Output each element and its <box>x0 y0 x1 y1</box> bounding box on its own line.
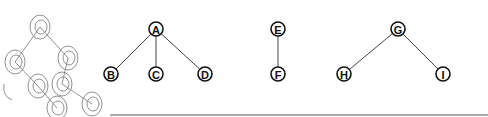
edge-g-i <box>403 34 438 69</box>
node-label: C <box>152 69 160 81</box>
edge-g-h <box>349 33 392 69</box>
sketch-edge <box>40 27 68 58</box>
node-label: B <box>107 69 115 81</box>
node-label: E <box>274 24 281 36</box>
node-b: B <box>104 67 118 81</box>
node-label: F <box>275 69 282 81</box>
node-a: A <box>149 22 163 36</box>
node-label: A <box>152 24 160 36</box>
node-i: I <box>436 67 450 81</box>
sketch-edge <box>15 27 40 62</box>
node-d: D <box>198 67 212 81</box>
edge-a-d <box>161 34 200 70</box>
sketch-node-inner <box>33 79 45 93</box>
sketch-node-inner <box>87 97 99 111</box>
hand-drawn-sketch <box>4 15 102 117</box>
node-f: F <box>271 67 285 81</box>
node-label: G <box>394 24 403 36</box>
sketch-edge <box>62 58 68 84</box>
forest-diagram: ABCDEFGHI <box>0 0 488 117</box>
node-e: E <box>271 22 285 36</box>
node-h: H <box>337 67 351 81</box>
tree-edges <box>116 33 438 69</box>
node-label: D <box>201 69 209 81</box>
sketch-node-inner <box>10 55 22 69</box>
sketch-node-inner <box>35 20 47 34</box>
sketch-stroke <box>4 84 12 100</box>
node-g: G <box>391 22 405 36</box>
sketch-node-inner <box>52 101 64 115</box>
sketch-node-inner <box>63 51 75 65</box>
node-label: H <box>340 69 348 81</box>
node-label: I <box>441 69 444 81</box>
sketch-edge <box>15 62 38 86</box>
edge-a-b <box>116 34 151 69</box>
node-c: C <box>149 67 163 81</box>
